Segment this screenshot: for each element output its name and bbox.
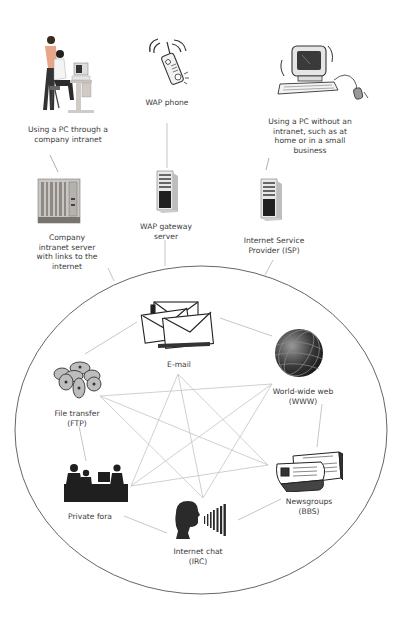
newspapers-icon: [273, 450, 343, 492]
ring-fora-ftp: [79, 426, 86, 461]
mobile-phone-icon: [140, 36, 198, 88]
label-wap-phone: WAP phone: [137, 98, 197, 108]
envelopes-icon: [140, 298, 220, 350]
label-intranet-pc: Using a PC through a company intranet: [10, 125, 126, 144]
ring-www-bbs: [317, 404, 322, 447]
tower-server-icon: [258, 178, 284, 222]
ring-irc-fora: [124, 516, 167, 533]
connector-home-pc-isp: [266, 158, 269, 170]
label-bbs: Newsgroups (BBS): [280, 497, 338, 516]
speaking-head-icon: [172, 499, 236, 541]
label-home-pc: Using a PC without an intranet, such as …: [250, 117, 370, 155]
desktop-computer-icon: [276, 40, 372, 102]
connector-intranet-pc-server: [50, 155, 58, 172]
label-www: World-wide web (WWW): [270, 387, 336, 406]
label-fora: Private fora: [58, 512, 122, 522]
label-intranet-server: Company intranet server with links to th…: [27, 233, 107, 271]
ring-email-www: [220, 318, 272, 336]
tower-server-icon: [154, 170, 180, 214]
rack-server-icon: [37, 178, 81, 224]
label-isp: Internet Service Provider (ISP): [236, 236, 312, 255]
connector-intranet-server-internet: [108, 268, 114, 281]
ring-ftp-email: [85, 322, 137, 354]
label-wap-gateway: WAP gateway server: [130, 222, 202, 241]
connector-isp-internet: [265, 260, 273, 275]
globe-icon: [273, 327, 325, 379]
label-irc: Internet chat (IRC): [162, 547, 234, 566]
label-ftp: File transfer (FTP): [40, 409, 114, 428]
label-email: E-mail: [160, 360, 198, 370]
internet-access-diagram: Using a PC through a company intranet WA…: [0, 0, 404, 631]
ring-bbs-irc: [238, 499, 281, 520]
meeting-silhouette-icon: [64, 462, 128, 502]
disks-icon: [52, 360, 102, 400]
office-workers-pc-icon: [26, 34, 94, 120]
